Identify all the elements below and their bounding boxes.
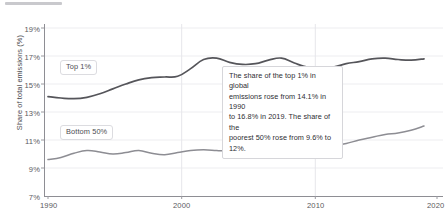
x-tick-label: 1990 xyxy=(40,201,57,210)
x-tick-label: 2000 xyxy=(173,201,190,210)
chart-annotation-callout: The share of the top 1% in global emissi… xyxy=(222,66,343,159)
annotation-line-1: The share of the top 1% in global xyxy=(229,71,337,92)
series-label-top-1-percent: Top 1% xyxy=(60,60,97,75)
annotation-line-2: emissions rose from 14.1% in 1990 xyxy=(229,92,337,113)
y-axis-ticks xyxy=(41,28,44,168)
annotation-line-3: to 16.8% in 2019. The share of the xyxy=(229,112,337,133)
emissions-share-chart: Share of total emissions (%) 19% 17% 15%… xyxy=(0,0,447,217)
series-label-bottom-50-percent: Bottom 50% xyxy=(60,125,113,140)
x-tick-label: 2020 xyxy=(427,201,444,210)
x-tick-label: 2010 xyxy=(307,201,324,210)
annotation-line-4: poorest 50% rose from 9.6% to 12%. xyxy=(229,133,337,154)
